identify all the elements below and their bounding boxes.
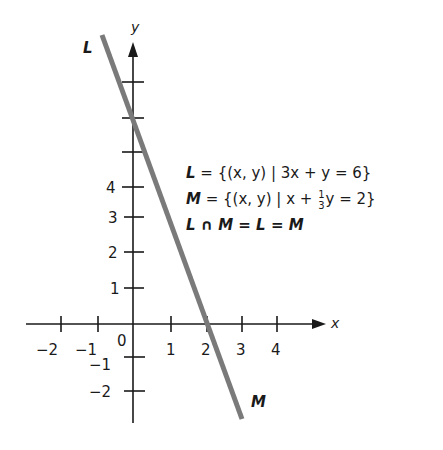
equations-block: L = {(x, y) | 3x + y = 6} M = {(x, y) | … — [186, 160, 376, 238]
y-axis-arrow-icon — [128, 42, 138, 57]
line-label-M: M — [251, 393, 266, 411]
equation-intersection: L ∩ M = L = M — [186, 212, 376, 238]
equation-M-rhs-b: y = 2} — [326, 190, 376, 208]
equation-L: L = {(x, y) | 3x + y = 6} — [186, 160, 376, 186]
x-tick-label: 3 — [236, 341, 246, 359]
y-tick-label: 1 — [110, 280, 120, 298]
equation-M-rhs-a: = {(x, y) | x + — [206, 190, 313, 208]
y-axis-label: y — [130, 19, 140, 35]
fraction-one-third: 1 3 — [318, 189, 324, 211]
y-tick-label: −1 — [89, 356, 111, 374]
x-tick-label: 1 — [166, 341, 176, 359]
x-axis-arrow-icon — [312, 319, 326, 329]
x-axis-label: x — [330, 315, 340, 331]
y-tick-label: 4 — [106, 179, 116, 197]
equation-M: M = {(x, y) | x + 1 3 y = 2} — [186, 186, 376, 212]
line-label-L: L — [83, 39, 93, 57]
origin-label: 0 — [117, 332, 127, 350]
x-tick-label: 4 — [271, 341, 281, 359]
intersection-statement: L ∩ M = L = M — [186, 216, 304, 234]
fraction-numerator: 1 — [318, 189, 324, 200]
fraction-denominator: 3 — [318, 200, 324, 211]
x-tick-label: −2 — [36, 341, 58, 359]
set-name-L: L — [186, 164, 196, 182]
y-tick-label: −2 — [89, 383, 111, 401]
x-tick-label: 2 — [201, 341, 211, 359]
y-tick-label: 2 — [108, 244, 118, 262]
equation-L-rhs: = {(x, y) | 3x + y = 6} — [200, 164, 371, 182]
set-name-M: M — [186, 190, 201, 208]
y-tick-label: 3 — [108, 209, 118, 227]
